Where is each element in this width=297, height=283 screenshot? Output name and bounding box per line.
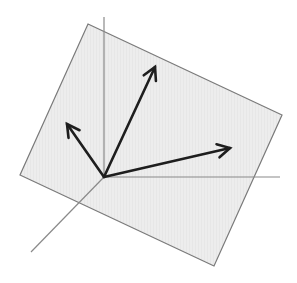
vector-plane-diagram xyxy=(0,0,297,283)
plane-parallelogram xyxy=(20,24,282,266)
diagram-canvas xyxy=(0,0,297,283)
